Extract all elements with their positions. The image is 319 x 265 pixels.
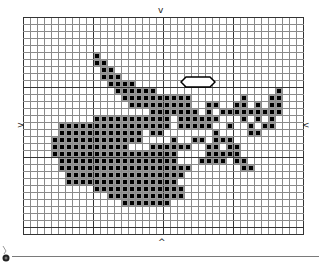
stitch-mark — [151, 110, 155, 114]
stitch-mark — [53, 145, 57, 149]
stitch-mark — [109, 152, 113, 156]
stitch-mark — [249, 166, 253, 170]
stitch-mark — [67, 159, 71, 163]
stitch-mark — [207, 117, 211, 121]
stitch-mark — [165, 194, 169, 198]
stitch-mark — [67, 166, 71, 170]
stitch-mark — [235, 110, 239, 114]
stitch-mark — [102, 173, 106, 177]
stitch-mark — [235, 103, 239, 107]
stitch-grid[interactable] — [23, 17, 304, 235]
stitch-mark — [270, 103, 274, 107]
stitch-mark — [130, 194, 134, 198]
stitch-mark — [165, 159, 169, 163]
stitch-mark — [242, 166, 246, 170]
stitch-mark — [221, 138, 225, 142]
stitch-mark — [88, 173, 92, 177]
bottom-divider — [12, 256, 319, 257]
stitch-mark — [165, 103, 169, 107]
stitch-mark — [172, 166, 176, 170]
stitch-mark — [137, 201, 141, 205]
stitch-mark — [109, 145, 113, 149]
stitch-mark — [179, 145, 183, 149]
stitch-mark — [130, 180, 134, 184]
stitch-mark — [130, 166, 134, 170]
stitch-mark — [270, 124, 274, 128]
stitch-mark — [186, 124, 190, 128]
stitch-mark — [67, 131, 71, 135]
stitch-mark — [193, 124, 197, 128]
stitch-mark — [95, 117, 99, 121]
stitch-mark — [165, 124, 169, 128]
stitch-mark — [193, 117, 197, 121]
stitch-mark — [116, 124, 120, 128]
stitch-mark — [242, 96, 246, 100]
stitch-mark — [67, 124, 71, 128]
stitch-mark — [109, 173, 113, 177]
stitch-mark — [102, 166, 106, 170]
stitch-mark — [137, 180, 141, 184]
stitch-mark — [137, 117, 141, 121]
stitch-mark — [165, 117, 169, 121]
stitch-mark — [151, 166, 155, 170]
stitch-mark — [249, 131, 253, 135]
stitch-mark — [256, 103, 260, 107]
stitch-mark — [123, 89, 127, 93]
bottom-center-marker: ^ — [158, 238, 166, 247]
stitch-mark — [158, 187, 162, 191]
stitch-mark — [123, 117, 127, 121]
stitch-mark — [158, 117, 162, 121]
stitch-mark — [144, 187, 148, 191]
stitch-mark — [158, 103, 162, 107]
stitch-mark — [123, 145, 127, 149]
stitch-mark — [151, 194, 155, 198]
stitch-mark — [88, 152, 92, 156]
stitch-mark — [130, 89, 134, 93]
stitch-mark — [109, 180, 113, 184]
stitch-mark — [200, 159, 204, 163]
stitch-mark — [53, 138, 57, 142]
stitch-mark — [74, 152, 78, 156]
stitch-mark — [95, 187, 99, 191]
stitch-mark — [200, 124, 204, 128]
stitch-mark — [95, 54, 99, 58]
stitch-mark — [165, 145, 169, 149]
stitch-mark — [158, 152, 162, 156]
stitch-mark — [165, 96, 169, 100]
stitch-mark — [172, 187, 176, 191]
stitch-mark — [179, 124, 183, 128]
stitch-mark — [200, 138, 204, 142]
stitch-mark — [144, 166, 148, 170]
stitch-mark — [221, 152, 225, 156]
stitch-mark — [123, 201, 127, 205]
stitch-mark — [221, 110, 225, 114]
stitch-mark — [165, 173, 169, 177]
stitch-mark — [109, 159, 113, 163]
stitch-mark — [179, 117, 183, 121]
stitch-mark — [144, 159, 148, 163]
stitch-mark — [214, 117, 218, 121]
stitch-mark — [102, 61, 106, 65]
stitch-mark — [158, 131, 162, 135]
stitch-mark — [207, 124, 211, 128]
stitch-mark — [172, 194, 176, 198]
stitch-mark — [130, 173, 134, 177]
stitch-mark — [116, 180, 120, 184]
anchor-icon[interactable] — [0, 245, 14, 263]
stitch-mark — [137, 194, 141, 198]
stitch-mark — [81, 159, 85, 163]
stitch-mark — [102, 75, 106, 79]
stitch-mark — [137, 138, 141, 142]
stitch-mark — [109, 138, 113, 142]
stitch-mark — [270, 96, 274, 100]
stitch-mark — [151, 201, 155, 205]
stitch-mark — [116, 138, 120, 142]
stitch-mark — [88, 145, 92, 149]
stitch-mark — [123, 194, 127, 198]
stitch-mark — [109, 117, 113, 121]
stitch-mark — [144, 103, 148, 107]
stitch-mark — [102, 124, 106, 128]
selection-hexagon[interactable] — [180, 76, 216, 88]
stitch-mark — [88, 180, 92, 184]
stitch-mark — [172, 180, 176, 184]
